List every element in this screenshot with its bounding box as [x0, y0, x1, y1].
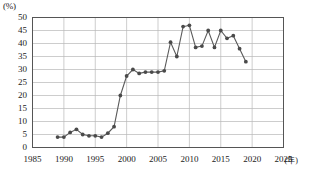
data-point [81, 133, 85, 137]
chart-container: (%) 05101520253035404550 198519901995200… [0, 0, 315, 178]
data-point [131, 68, 135, 72]
data-point [144, 70, 148, 74]
data-point [137, 72, 141, 76]
y-axis-tick-label: 40 [5, 39, 27, 48]
x-axis-tick-label: 1985 [16, 155, 50, 164]
y-axis-tick-label: 20 [5, 91, 27, 100]
y-axis-tick-label: 45 [5, 26, 27, 35]
data-point [150, 70, 154, 74]
data-point [181, 25, 185, 29]
x-axis-tick-label: 2005 [141, 155, 175, 164]
data-point [62, 135, 66, 139]
data-point [125, 74, 129, 78]
x-axis-tick-label: 2000 [110, 155, 144, 164]
data-point [100, 135, 104, 139]
data-point [187, 23, 191, 27]
x-axis-tick-label: 1995 [78, 155, 112, 164]
data-point [118, 94, 122, 98]
data-point [162, 69, 166, 73]
data-point [244, 60, 248, 64]
data-point [200, 44, 204, 48]
x-axis-tick-label: 1990 [47, 155, 81, 164]
data-point [75, 127, 79, 131]
y-axis-tick-label: 35 [5, 52, 27, 61]
data-point [219, 29, 223, 33]
data-point [238, 47, 242, 51]
x-axis-tick-label: 2010 [172, 155, 206, 164]
y-axis-tick-label: 25 [5, 78, 27, 87]
y-axis-tick-label: 50 [5, 13, 27, 22]
x-axis-tick-label: 2020 [235, 155, 269, 164]
data-point [56, 135, 60, 139]
data-point [169, 40, 173, 44]
y-axis-tick-label: 0 [5, 143, 27, 152]
data-point [68, 131, 72, 135]
y-axis-tick-label: 15 [5, 104, 27, 113]
chart-plot-area [0, 0, 315, 178]
data-point [156, 70, 160, 74]
data-point [213, 46, 217, 50]
data-point [93, 134, 97, 138]
data-point [87, 134, 91, 138]
x-axis-unit-label: (年) [285, 156, 298, 165]
data-point [106, 131, 110, 135]
y-axis-tick-label: 10 [5, 117, 27, 126]
gridlines [33, 18, 284, 148]
y-axis-tick-label: 30 [5, 65, 27, 74]
y-axis-tick-label: 5 [5, 130, 27, 139]
data-point [206, 29, 210, 33]
x-axis-tick-label: 2015 [204, 155, 238, 164]
data-point [231, 34, 235, 38]
data-point [225, 36, 229, 40]
data-point [175, 55, 179, 59]
data-point [112, 125, 116, 129]
data-line-series-1 [58, 25, 246, 137]
data-point [194, 46, 198, 50]
